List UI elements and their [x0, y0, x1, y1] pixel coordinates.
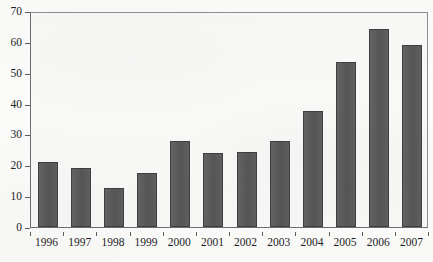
y-tick-mark-10: [25, 197, 30, 198]
y-tick-label-10: 10: [11, 191, 23, 203]
x-tick-mark-6: [229, 232, 230, 236]
x-tick-mark-2: [96, 232, 97, 236]
bar-2005: [336, 62, 356, 227]
x-tick-label-2004: 2004: [300, 237, 323, 249]
x-tick-mark-0: [30, 232, 31, 236]
y-tick-mark-50: [25, 74, 30, 75]
y-tick-mark-70: [25, 12, 30, 13]
x-tick-mark-1: [63, 232, 64, 236]
bar-1997: [71, 168, 91, 227]
y-tick-mark-30: [25, 135, 30, 136]
x-tick-mark-8: [295, 232, 296, 236]
x-tick-mark-4: [163, 232, 164, 236]
x-tick-mark-10: [362, 232, 363, 236]
x-tick-label-2007: 2007: [400, 237, 423, 249]
bar-2003: [270, 141, 290, 227]
y-tick-label-30: 30: [11, 130, 23, 142]
y-tick-mark-60: [25, 43, 30, 44]
y-tick-label-0: 0: [16, 222, 22, 234]
x-tick-mark-9: [329, 232, 330, 236]
bar-2001: [203, 153, 223, 227]
x-tick-mark-11: [395, 232, 396, 236]
bar-2004: [303, 111, 323, 227]
y-tick-mark-0: [25, 228, 30, 229]
bar-2000: [170, 141, 190, 227]
x-tick-label-2003: 2003: [267, 237, 290, 249]
x-tick-label-2001: 2001: [201, 237, 224, 249]
x-tick-label-2006: 2006: [367, 237, 390, 249]
bar-1996: [38, 162, 58, 227]
bars-layer: [31, 13, 427, 227]
y-tick-label-50: 50: [11, 68, 23, 80]
y-tick-mark-20: [25, 166, 30, 167]
bar-1998: [104, 188, 124, 227]
x-axis: 1996199719981999200020012002200320042005…: [30, 232, 428, 256]
bar-chart-figure: 010203040506070 199619971998199920002001…: [0, 0, 433, 262]
x-tick-mark-12: [428, 232, 429, 236]
y-tick-label-70: 70: [11, 6, 23, 18]
x-tick-label-2000: 2000: [168, 237, 191, 249]
y-axis: 010203040506070: [0, 0, 30, 262]
bar-2002: [237, 152, 257, 227]
y-tick-mark-40: [25, 105, 30, 106]
x-tick-label-1996: 1996: [35, 237, 58, 249]
x-tick-label-2005: 2005: [334, 237, 357, 249]
y-tick-label-40: 40: [11, 99, 23, 111]
y-tick-label-20: 20: [11, 161, 23, 173]
x-tick-mark-5: [196, 232, 197, 236]
x-tick-label-1998: 1998: [101, 237, 124, 249]
x-tick-mark-3: [130, 232, 131, 236]
x-tick-label-1999: 1999: [135, 237, 158, 249]
bar-2006: [369, 29, 389, 227]
bar-2007: [402, 45, 422, 227]
plot-area: [30, 12, 428, 228]
bar-1999: [137, 173, 157, 227]
y-tick-label-60: 60: [11, 37, 23, 49]
x-tick-label-2002: 2002: [234, 237, 257, 249]
x-tick-mark-7: [262, 232, 263, 236]
x-tick-label-1997: 1997: [68, 237, 91, 249]
